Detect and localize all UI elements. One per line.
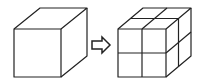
divided-cube [118, 8, 191, 77]
arrow-icon [92, 37, 110, 53]
single-cube [14, 8, 87, 77]
diagram-canvas [0, 0, 204, 81]
